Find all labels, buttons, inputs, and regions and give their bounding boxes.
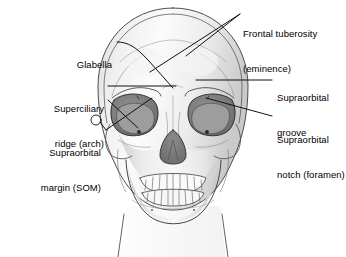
label-supraorbital-margin-line1: Supraorbital: [41, 147, 101, 159]
leader-glabella: [117, 42, 173, 88]
label-frontal-tuberosity-line1: Frontal tuberosity: [243, 28, 317, 40]
leader-supraorbital-margin: [106, 98, 152, 130]
label-glabella-line1: Glabella: [77, 59, 112, 71]
label-supraorbital-notch-line2: notch (foramen): [277, 169, 345, 181]
label-supraorbital-notch: Supraorbital notch (foramen): [277, 111, 345, 203]
leader-frontal-tuberosity-b: [150, 14, 240, 72]
label-supraorbital-groove-line1: Supraorbital: [277, 92, 329, 104]
leader-superciliary-ridge-2: [108, 100, 138, 128]
label-supraorbital-margin: Supraorbital margin (SOM): [41, 124, 101, 216]
skull-diagram-figure: Glabella Superciliary ridge (arch) Supra…: [0, 0, 346, 257]
label-supraorbital-margin-line2: margin (SOM): [41, 182, 101, 194]
leader-supraorbital-notch: [206, 98, 272, 116]
label-superciliary-ridge-line1: Superciliary: [54, 103, 104, 115]
label-supraorbital-notch-line1: Supraorbital: [277, 134, 345, 146]
leader-frontal-tuberosity-a: [186, 14, 240, 56]
